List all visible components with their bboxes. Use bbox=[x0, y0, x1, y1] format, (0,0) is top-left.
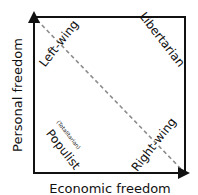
y-axis-label: Personal freedom bbox=[10, 38, 25, 152]
region-label-right-wing: Right-wing bbox=[129, 115, 180, 174]
region-label-libertarian: Libertarian bbox=[137, 10, 188, 70]
x-axis-label: Economic freedom bbox=[49, 181, 171, 195]
nolan-chart: Economic freedom Personal freedom Left-w… bbox=[0, 0, 198, 195]
